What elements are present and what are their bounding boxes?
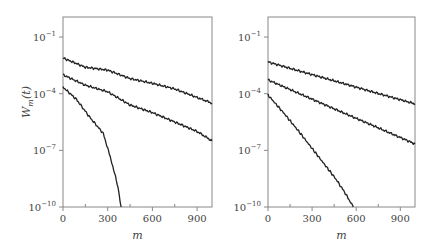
series-curve-3 [268,94,353,207]
x-tick-label: 600 [347,213,366,224]
x-tick-label: 300 [98,213,117,224]
y-tick-label: 10−7 [238,143,261,156]
x-axis-label: m [132,229,142,242]
y-tick-label: 10−4 [33,87,57,100]
y-tick-label: 10−1 [33,30,56,43]
series-curve-1 [268,61,415,104]
x-tick-label: 0 [265,213,271,224]
series-curve-3 [63,87,121,207]
x-axis-label: m [336,229,346,242]
series-curve-2 [268,79,415,144]
y-tick-label: 10−10 [28,200,56,213]
series-curve-1 [63,58,212,104]
y-tick-label: 10−1 [238,30,261,43]
x-tick-label: 600 [143,213,162,224]
x-tick-label: 900 [391,213,410,224]
series-curve-2 [63,74,212,141]
y-tick-label: 10−4 [238,87,262,100]
right-panel: 030060090010−110−410−710−10m [233,17,415,242]
left-panel: 030060090010−110−410−710−10mWm(t) [20,17,212,242]
chart-figure: 030060090010−110−410−710−10mWm(t) 030060… [0,0,431,249]
x-tick-label: 0 [60,213,66,224]
x-tick-label: 300 [303,213,322,224]
x-tick-label: 900 [188,213,207,224]
y-axis-label: Wm(t) [20,86,35,118]
y-tick-label: 10−10 [233,200,261,213]
y-tick-label: 10−7 [33,143,56,156]
